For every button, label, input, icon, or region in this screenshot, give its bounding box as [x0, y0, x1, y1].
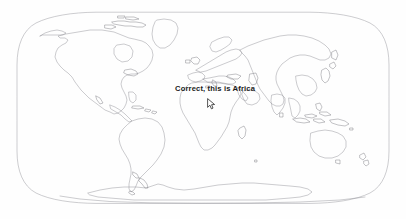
- continent-antarctica: [88, 172, 312, 200]
- world-map-svg[interactable]: [0, 0, 406, 219]
- map-annotation-label: Correct, this is Africa: [175, 84, 255, 94]
- screenshot-root: Correct, this is Africa: [0, 0, 406, 219]
- continent-asia: [240, 35, 349, 126]
- mouse-pointer-icon: [207, 96, 216, 108]
- continent-north-america: [40, 16, 178, 122]
- world-map-viewport[interactable]: [0, 0, 406, 219]
- continent-europe: [186, 37, 258, 88]
- continent-australia: [255, 128, 369, 166]
- antarctic-ice-edge: [60, 196, 365, 203]
- continent-south-america: [119, 118, 165, 195]
- map-frame-outline: [17, 12, 389, 203]
